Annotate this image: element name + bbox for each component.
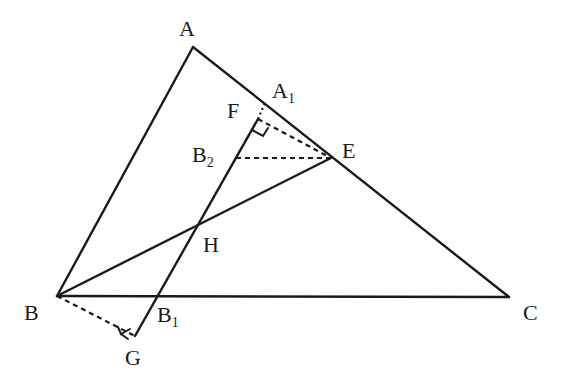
label-A1: A1 xyxy=(272,78,295,106)
segment-BE xyxy=(57,158,331,296)
label-B1: B1 xyxy=(157,302,179,330)
label-G: G xyxy=(125,345,141,370)
right-angle-marker-G2 xyxy=(121,334,128,339)
label-B2: B2 xyxy=(192,142,214,170)
right-angle-marker-F xyxy=(252,128,268,136)
label-H: H xyxy=(203,232,219,257)
segment-BC xyxy=(57,296,509,297)
label-F: F xyxy=(227,98,239,123)
segment-AB xyxy=(57,47,193,296)
label-E: E xyxy=(342,138,355,163)
segment-FA1 xyxy=(258,103,265,119)
segment-AC xyxy=(193,47,509,297)
segment-FE xyxy=(258,119,331,158)
geometry-diagram: A A1 F B2 E H B B1 G C xyxy=(0,0,561,390)
label-A: A xyxy=(179,16,195,41)
segment-BG xyxy=(57,296,135,336)
label-B: B xyxy=(24,300,39,325)
label-C: C xyxy=(523,300,538,325)
